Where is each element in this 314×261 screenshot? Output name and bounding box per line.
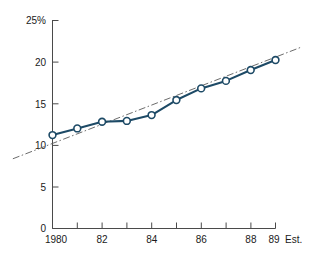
trend-line-path: [13, 47, 302, 159]
y-tick-labels-group: 25% 20 15 10 5 0: [26, 15, 46, 234]
data-series-group: [53, 60, 276, 135]
axes-group: [53, 20, 276, 229]
line-chart: 25% 20 15 10 5 0 1980 82 84 86 88 89: [0, 0, 314, 261]
y-axis-label-20: 20: [35, 57, 47, 68]
data-point-marker: [49, 132, 56, 139]
x-axis-label-82: 82: [97, 234, 109, 245]
x-axis-estimate-note: Est.: [285, 234, 302, 245]
x-axis-label-84: 84: [146, 234, 158, 245]
y-axis-label-25: 25%: [26, 15, 46, 26]
data-series-line: [53, 60, 276, 135]
y-axis-label-5: 5: [40, 182, 46, 193]
y-axis-label-10: 10: [35, 140, 47, 151]
chart-container: 25% 20 15 10 5 0 1980 82 84 86 88 89: [0, 0, 314, 261]
y-tick-marks-group: [53, 62, 59, 228]
x-axis-label-89: 89: [268, 234, 280, 245]
data-point-marker: [148, 112, 155, 119]
data-point-marker: [99, 118, 106, 125]
data-point-marker: [198, 85, 205, 92]
data-point-marker: [173, 97, 180, 104]
x-axis-label-86: 86: [196, 234, 208, 245]
x-tick-labels-group: 1980 82 84 86 88 89 Est.: [45, 234, 302, 245]
data-point-marker: [74, 125, 81, 132]
x-axis-label-1980: 1980: [45, 234, 68, 245]
data-point-marker: [247, 67, 254, 74]
x-axis-label-88: 88: [245, 234, 257, 245]
y-axis-label-15: 15: [35, 99, 47, 110]
x-tick-marks-group: [53, 223, 251, 229]
trend-line-group: [13, 47, 302, 159]
data-point-marker: [272, 57, 279, 64]
data-point-marker: [123, 118, 130, 125]
data-point-marker: [223, 77, 230, 84]
y-axis-label-0: 0: [40, 223, 46, 234]
